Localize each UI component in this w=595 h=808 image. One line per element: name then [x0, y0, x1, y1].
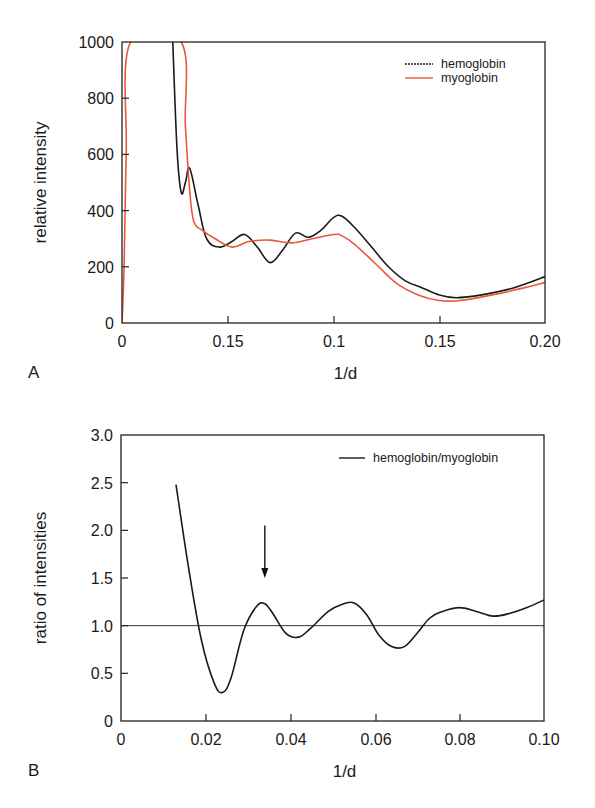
x-axis-label: 1/d: [333, 762, 357, 781]
y-tick-label: 0.5: [91, 665, 113, 682]
x-axis-label: 1/d: [334, 364, 358, 383]
x-tick-label: 0.1: [323, 333, 345, 350]
series-group: [176, 485, 544, 693]
y-tick-label: 3.0: [91, 427, 113, 444]
panel-letter: A: [28, 363, 40, 382]
y-tick-label: 1.0: [91, 618, 113, 635]
arrow-annotation-icon: [261, 526, 268, 578]
legend: hemoglobinmyoglobin: [405, 57, 506, 85]
y-tick-label: 200: [87, 259, 114, 276]
y-tick-label: 1000: [78, 34, 114, 51]
x-tick-label: 0.10: [528, 731, 559, 748]
y-tick-label: 800: [87, 90, 114, 107]
legend: hemoglobin/myoglobin: [339, 451, 498, 465]
y-tick-label: 1.5: [91, 570, 113, 587]
x-tick-label: 0.20: [529, 333, 560, 350]
series-line-hemoglobin-myoglobin: [176, 485, 544, 693]
y-tick-label: 0: [104, 713, 113, 730]
x-tick-label: 0: [118, 333, 127, 350]
panel-a: 00.150.10.150.20020040060080010001/drela…: [28, 29, 561, 383]
x-tick-label: 0.08: [444, 731, 475, 748]
legend-label: hemoglobin/myoglobin: [373, 451, 498, 465]
x-tick-label: 0.06: [360, 731, 391, 748]
y-axis-label: ratio of intensities: [31, 512, 50, 644]
y-tick-label: 600: [87, 146, 114, 163]
y-tick-label: 0: [105, 315, 114, 332]
x-tick-label: 0.02: [190, 731, 221, 748]
x-tick-label: 0: [117, 731, 126, 748]
figure: 00.150.10.150.20020040060080010001/drela…: [0, 0, 595, 808]
y-tick-label: 2.0: [91, 522, 113, 539]
panel-letter: B: [28, 761, 39, 780]
panel-b: 00.020.040.060.080.1000.51.01.52.02.53.0…: [28, 427, 560, 781]
x-tick-label: 0.04: [275, 731, 306, 748]
legend-label: myoglobin: [441, 71, 498, 85]
legend-label: hemoglobin: [441, 57, 506, 71]
y-axis-label: relative intensity: [31, 121, 50, 243]
x-tick-label: 0.15: [424, 333, 455, 350]
plot-frame: [121, 435, 544, 721]
y-tick-label: 400: [87, 203, 114, 220]
y-tick-label: 2.5: [91, 475, 113, 492]
x-tick-label: 0.15: [212, 333, 243, 350]
